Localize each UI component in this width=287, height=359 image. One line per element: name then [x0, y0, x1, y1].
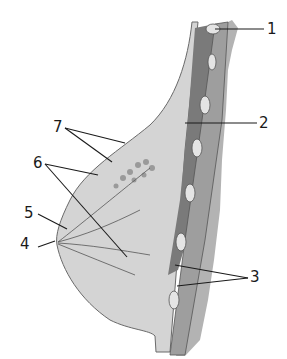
label-6: 6 [33, 156, 43, 171]
label-5: 5 [24, 206, 34, 221]
breast-anatomy-illustration [0, 0, 287, 359]
label-2: 2 [259, 116, 269, 131]
label-1: 1 [267, 22, 277, 37]
label-7: 7 [53, 120, 63, 135]
label-3: 3 [250, 270, 260, 285]
label-4: 4 [20, 237, 30, 252]
